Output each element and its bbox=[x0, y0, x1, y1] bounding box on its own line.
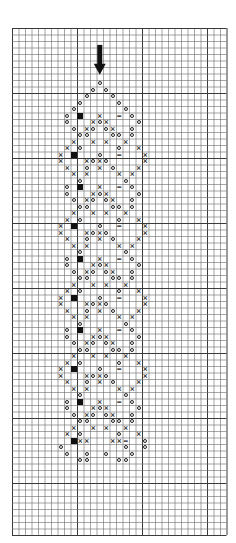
start-arrow-icon bbox=[12, 28, 227, 535]
